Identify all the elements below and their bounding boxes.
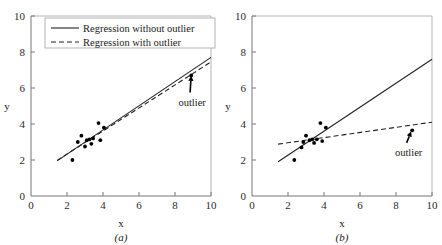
chart-panel-b: 02468100246810xy(b)outlier (221, 0, 442, 245)
y-axis-tick-label: 10 (14, 10, 26, 22)
data-point (310, 137, 314, 141)
outlier-annotation-label: outlier (395, 147, 423, 158)
x-axis-tick-label: 6 (357, 199, 363, 211)
x-axis-tick-label: 10 (206, 199, 218, 211)
y-axis-tick-label: 4 (20, 118, 26, 130)
legend-label: Regression with outlier (83, 37, 181, 48)
data-point (97, 121, 101, 125)
x-axis-tick-label: 2 (285, 199, 291, 211)
data-point (98, 138, 102, 142)
data-point (83, 145, 87, 149)
data-point (88, 137, 92, 141)
panel-caption: (b) (336, 231, 349, 244)
regression-outlier-figure: 02468100246810xy(a)outlierRegression wit… (0, 0, 442, 245)
data-point (292, 158, 296, 162)
outlier-arrow (190, 81, 191, 93)
x-axis-tick-label: 4 (321, 199, 327, 211)
data-point (71, 158, 75, 162)
data-point (80, 134, 84, 138)
x-axis-tick-label: 8 (393, 199, 399, 211)
outlier-annotation-label: outlier (178, 97, 206, 108)
data-point (89, 142, 93, 146)
data-point (76, 140, 80, 144)
x-axis-tick-label: 0 (28, 199, 34, 211)
data-point (319, 121, 323, 125)
x-axis-tick-label: 4 (100, 199, 106, 211)
data-point (320, 139, 324, 143)
legend-label: Regression without outlier (83, 23, 195, 34)
scatter-plot-b: 02468100246810xy(b)outlier (221, 0, 442, 245)
x-axis-title: x (118, 217, 124, 229)
y-axis-tick-label: 8 (20, 46, 26, 58)
outlier-arrow (407, 136, 410, 143)
data-point (301, 140, 305, 144)
plot-frame (252, 16, 432, 196)
x-axis-tick-label: 10 (427, 199, 439, 211)
data-point (300, 146, 304, 150)
y-axis-title: y (225, 100, 231, 112)
data-point (315, 137, 319, 141)
x-axis-title: x (339, 217, 345, 229)
data-point (91, 137, 95, 141)
data-point (304, 134, 308, 138)
x-axis-tick-label: 0 (249, 199, 255, 211)
x-axis-tick-label: 6 (136, 199, 142, 211)
chart-panel-a: 02468100246810xy(a)outlierRegression wit… (0, 0, 221, 245)
y-axis-tick-label: 6 (241, 82, 247, 94)
y-axis-tick-label: 4 (241, 118, 247, 130)
y-axis-tick-label: 0 (241, 190, 247, 202)
y-axis-tick-label: 2 (20, 154, 26, 166)
data-point (324, 126, 328, 130)
y-axis-tick-label: 8 (241, 46, 247, 58)
y-axis-tick-label: 0 (20, 190, 26, 202)
x-axis-tick-label: 2 (64, 199, 70, 211)
regression-line-with-outlier (57, 62, 211, 160)
panel-caption: (a) (115, 231, 128, 244)
y-axis-title: y (4, 100, 10, 112)
data-point (102, 126, 106, 130)
x-axis-tick-label: 8 (172, 199, 178, 211)
y-axis-tick-label: 2 (241, 154, 247, 166)
plot-axes (252, 16, 432, 196)
scatter-plot-a: 02468100246810xy(a)outlierRegression wit… (0, 0, 221, 245)
y-axis-tick-label: 10 (235, 10, 247, 22)
y-axis-tick-label: 6 (20, 82, 26, 94)
data-point (312, 141, 316, 145)
regression-line-with-outlier (278, 122, 432, 144)
